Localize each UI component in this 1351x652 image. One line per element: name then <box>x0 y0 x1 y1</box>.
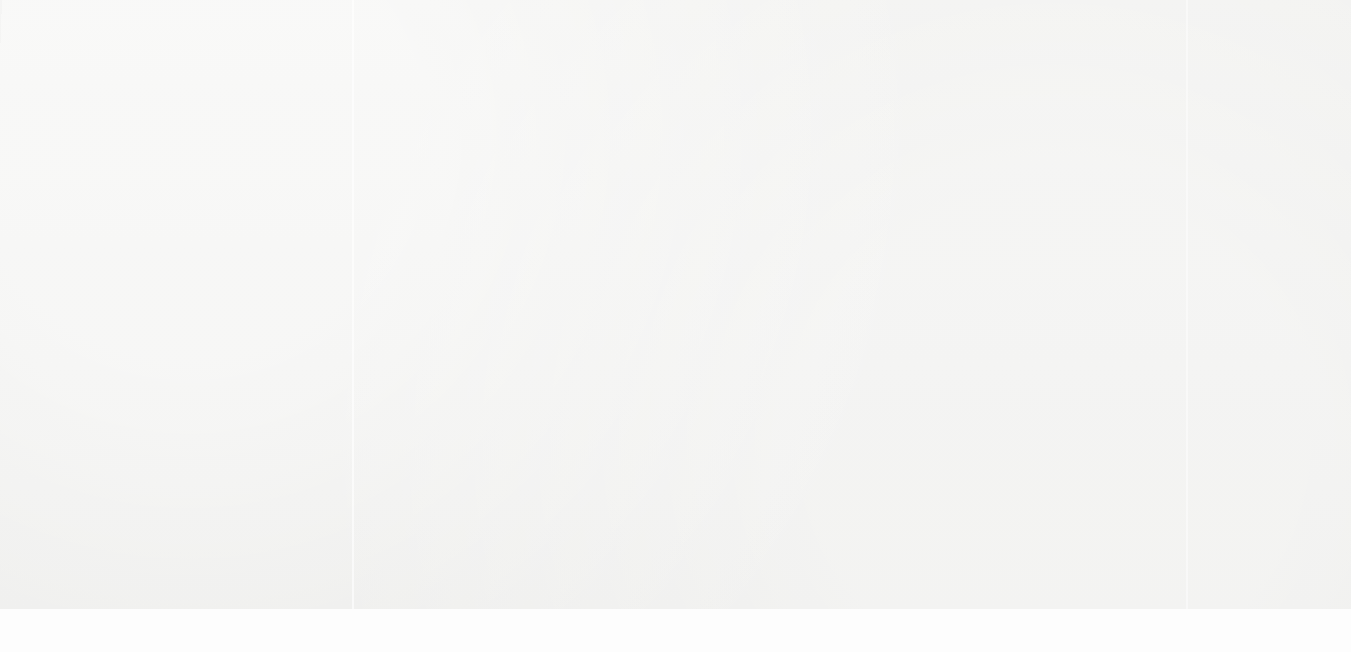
bar-chart <box>0 0 1351 609</box>
page-bottom-margin <box>0 609 1351 652</box>
